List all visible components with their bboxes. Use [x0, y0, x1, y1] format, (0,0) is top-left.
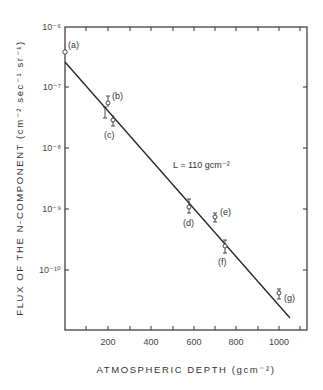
point-label-d: (d) [183, 218, 194, 228]
fit-line [65, 62, 290, 318]
point-c [111, 118, 115, 122]
point-b [106, 101, 110, 105]
point-label-b: (b) [112, 91, 123, 101]
attenuation-annotation: L = 110 gcm⁻² [173, 160, 230, 170]
point-g [277, 291, 281, 295]
point-f [223, 244, 227, 248]
x-axis-title: ATMOSPHERIC DEPTH (gcm⁻²) [97, 364, 276, 375]
point-a [63, 50, 67, 54]
y-axis-title: FLUX OF THE N-COMPONENT (cm⁻² sec⁻¹ sr⁻¹… [14, 40, 25, 316]
y-ticks [65, 87, 307, 270]
y-tick-label: 10⁻⁹ [42, 204, 61, 214]
point-label-e: (e) [220, 207, 231, 217]
x-tick-label: 400 [143, 337, 158, 347]
y-tick-label: 10⁻⁶ [42, 22, 61, 32]
chart: 200 400 600 800 1000 10⁻⁶ 10⁻⁷ 10⁻⁸ 10⁻⁹… [0, 0, 323, 390]
point-label-g: (g) [284, 293, 295, 303]
point-d [187, 205, 191, 209]
x-tick-label: 200 [100, 337, 115, 347]
point-label-c: (c) [104, 130, 115, 140]
y-tick-label: 10⁻¹⁰ [39, 265, 61, 275]
point-e [213, 215, 217, 219]
x-tick-label: 800 [228, 337, 243, 347]
y-tick-label: 10⁻⁸ [42, 143, 61, 153]
point-label-f: (f) [218, 257, 227, 267]
x-tick-label: 1000 [269, 337, 289, 347]
plot-frame [65, 27, 307, 330]
x-tick-label: 600 [186, 337, 201, 347]
point-label-a: (a) [68, 40, 79, 50]
y-tick-label: 10⁻⁷ [43, 82, 61, 92]
x-ticks [86, 27, 300, 330]
data-points [63, 50, 281, 299]
